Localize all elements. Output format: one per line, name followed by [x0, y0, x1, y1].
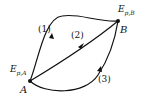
- point-a-dot: [28, 79, 32, 83]
- path-3-arrow-icon: [97, 66, 102, 72]
- energy-a-label: Ep,A: [10, 65, 27, 76]
- path-diagram: (1) (2) (3) A B Ep,A Ep,B: [0, 0, 147, 98]
- energy-a-symbol: E: [10, 64, 17, 74]
- point-a-label: A: [20, 85, 27, 95]
- point-b-label: B: [120, 25, 127, 35]
- path-1-label: (1): [38, 25, 51, 34]
- energy-b-symbol: E: [118, 4, 125, 14]
- point-b-dot: [116, 19, 120, 23]
- energy-b-subscript: p,B: [125, 9, 135, 16]
- path-3-label: (3): [98, 75, 111, 84]
- path-2-arrow-icon: [78, 43, 84, 49]
- energy-b-label: Ep,B: [118, 5, 135, 16]
- path-2-label: (2): [71, 31, 84, 40]
- energy-a-subscript: p,A: [17, 69, 27, 76]
